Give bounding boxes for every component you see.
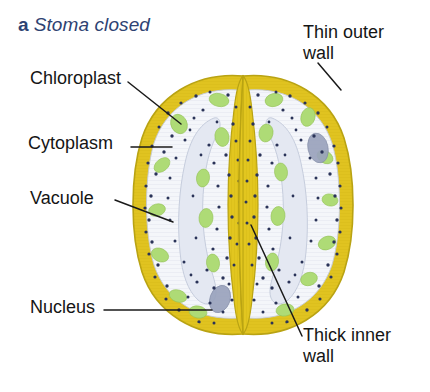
label-nucleus: Nucleus <box>30 297 95 318</box>
label-vacuole: Vacuole <box>30 188 94 209</box>
leader-thin-outer <box>318 63 341 90</box>
label-cytoplasm: Cytoplasm <box>28 133 113 154</box>
figure-title: aStoma closed <box>18 14 150 36</box>
label-thin-outer-wall: Thin outer wall <box>303 22 384 64</box>
label-thick-inner-wall: Thick inner wall <box>303 325 391 367</box>
stoma-closed-figure: aStoma closed Chloroplast Cytoplasm Vacu… <box>0 0 430 392</box>
figure-part-letter: a <box>18 14 29 35</box>
guard-cell-right <box>239 76 353 335</box>
label-chloroplast: Chloroplast <box>30 68 121 89</box>
guard-cell-left <box>133 76 247 335</box>
figure-part-name: Stoma closed <box>34 14 150 35</box>
